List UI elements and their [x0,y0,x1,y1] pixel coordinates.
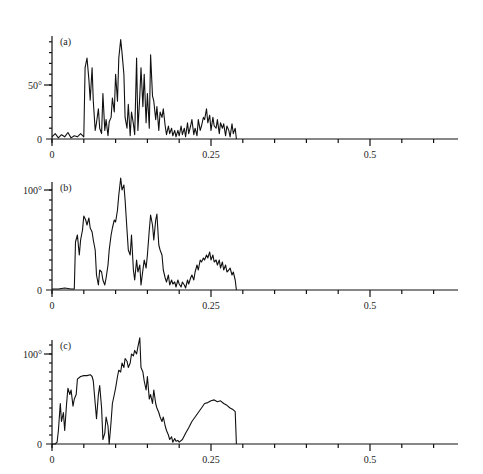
y-tick-label: 50° [28,80,42,91]
panel-label: (b) [60,182,72,194]
x-tick-label: 0.25 [202,149,220,160]
panel-label: (c) [60,340,71,352]
y-tick-label: 0 [37,134,42,145]
x-tick-label: 0.25 [202,454,220,465]
y-tick-label: 0 [37,439,42,450]
x-tick-label: 0.5 [364,149,377,160]
y-tick-label: 0 [37,285,42,296]
x-tick-label: 0.5 [364,300,377,311]
data-trace [52,40,236,139]
x-tick-label: 0.25 [202,300,220,311]
x-tick-label: 0 [50,300,55,311]
panel-c: 00.250.50100°(c) [23,338,458,465]
y-tick-label: 100° [23,185,42,196]
data-trace [52,178,236,290]
figure: 00.250.5050°(a) 00.250.50100°(b) 00.250.… [0,0,483,474]
data-trace [52,338,236,444]
panel-a: 00.250.5050°(a) [28,36,458,160]
x-tick-label: 0.5 [364,454,377,465]
y-tick-label: 100° [23,349,42,360]
x-tick-label: 0 [50,149,55,160]
panel-label: (a) [60,36,71,48]
panel-b: 00.250.50100°(b) [23,178,458,311]
x-tick-label: 0 [50,454,55,465]
